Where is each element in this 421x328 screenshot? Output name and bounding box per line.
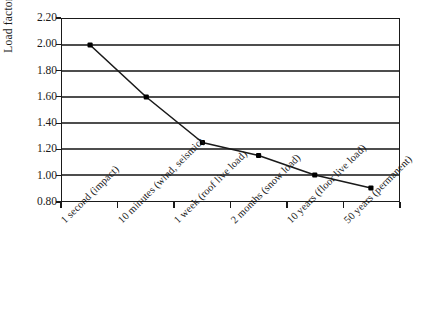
x-axis-tick-label: 1 second (impact) [59,163,122,226]
line-chart: Load factor 2.202.001.801.601.401.201.00… [0,0,421,328]
x-axis-tick-labels: 1 second (impact)10 minutes (wind, seism… [0,0,421,328]
